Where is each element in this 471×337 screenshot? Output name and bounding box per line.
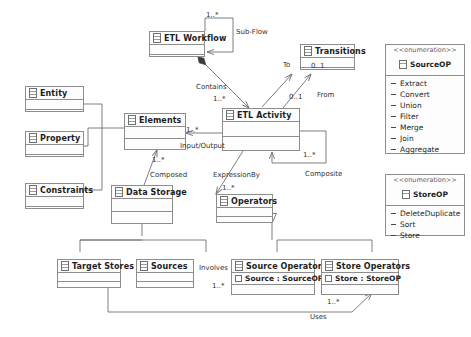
enumeration-literal: Store <box>386 230 464 241</box>
class-entity[interactable]: Entity <box>25 86 84 112</box>
class-sources[interactable]: Sources <box>136 259 194 288</box>
class-attribute-row: Store : StoreOP <box>322 273 398 284</box>
class-title: Property <box>40 134 80 143</box>
edge-label-from: From <box>317 92 334 99</box>
enumeration-literal: Merge <box>386 122 464 133</box>
enumeration-icon <box>399 60 407 69</box>
class-attributes <box>112 199 172 212</box>
edge-multiplicity-composed: 1..* <box>152 157 164 164</box>
class-title: Target Stores <box>72 262 134 271</box>
edge-label-uses: Uses <box>310 314 327 321</box>
class-operations <box>232 285 314 293</box>
literal-text: Sort <box>400 220 415 229</box>
class-operations <box>301 68 354 77</box>
class-attributes <box>150 45 204 55</box>
literal-bullet-icon <box>391 213 396 214</box>
class-title: ETL Workflow <box>164 34 226 43</box>
edge-label-input-output: Input/Output <box>180 143 225 150</box>
class-header: Elements <box>125 114 185 127</box>
edge-label-expressionby: ExpressionBy <box>213 172 260 179</box>
class-header: ETL Activity <box>223 109 299 122</box>
class-header: Operators <box>217 195 272 208</box>
edge-label-composite: Composite <box>305 171 342 178</box>
class-attributes <box>223 122 299 137</box>
class-icon <box>220 196 228 206</box>
class-attributes <box>26 100 83 110</box>
enumeration-literal: Filter <box>386 111 464 122</box>
class-target-stores[interactable]: Target Stores <box>57 259 121 288</box>
class-icon <box>61 261 69 271</box>
literal-bullet-icon <box>391 116 396 117</box>
edge-multiplicity-contains: 1..* <box>213 96 225 103</box>
class-operations <box>223 137 299 151</box>
class-header: Data Storage <box>112 186 172 199</box>
class-icon <box>235 261 243 271</box>
enumeration-literals: DeleteDuplicate Sort Store <box>386 206 464 244</box>
literal-bullet-icon <box>391 224 396 225</box>
enumeration-literal: Convert <box>386 89 464 100</box>
class-attributes <box>26 145 83 155</box>
enumeration-stereotype: <<enumeration>> <box>389 177 461 184</box>
edge-multiplicity-from: 0..1 <box>311 63 324 70</box>
class-title: Transitions <box>315 47 366 56</box>
enumeration-name-wrap: StoreOP <box>402 190 448 199</box>
class-operations <box>26 155 83 164</box>
class-header: Constraints <box>26 184 83 197</box>
literal-text: Store <box>400 231 420 240</box>
enumeration-name: StoreOP <box>413 190 448 199</box>
class-constraints[interactable]: Constraints <box>25 183 84 209</box>
class-operations <box>112 212 172 225</box>
class-operations <box>26 110 83 119</box>
class-data-storage[interactable]: Data Storage <box>111 185 173 224</box>
literal-text: Union <box>400 101 422 110</box>
class-attributes <box>301 58 354 68</box>
class-store-operators[interactable]: Store Operators Store : StoreOP <box>321 259 399 295</box>
literal-text: DeleteDuplicate <box>400 209 460 218</box>
class-attributes <box>26 197 83 207</box>
class-icon <box>128 115 136 125</box>
class-operations <box>150 55 204 64</box>
enumeration-literal: DeleteDuplicate <box>386 208 464 219</box>
class-title: Constraints <box>40 186 93 195</box>
edge-multiplicity-composite: 1..* <box>303 152 315 159</box>
class-transitions[interactable]: Transitions <box>300 44 355 70</box>
edge-label-involves: Involves <box>199 265 228 272</box>
class-elements[interactable]: Elements <box>124 113 186 150</box>
edge-multiplicity-to: 0..1 <box>289 94 302 101</box>
class-source-operators[interactable]: Source Operators Source : SourceOP <box>231 259 315 295</box>
edge-multiplicity-involves: 1..* <box>212 283 224 290</box>
edge-multiplicity-sub-flow: 1..* <box>206 12 218 19</box>
class-attribute-row: Source : SourceOP <box>232 273 314 284</box>
class-title: Source Operators <box>246 262 327 271</box>
class-icon <box>29 88 37 98</box>
class-operators[interactable]: Operators <box>216 194 273 223</box>
class-header: ETL Workflow <box>150 32 204 45</box>
class-etl-activity[interactable]: ETL Activity <box>222 108 300 151</box>
literal-bullet-icon <box>391 83 396 84</box>
enumeration-header: <<enumeration>> SourceOP <box>386 45 464 76</box>
literal-bullet-icon <box>391 149 396 150</box>
class-attributes: Source : SourceOP <box>232 273 314 285</box>
enumeration-literal: Extract <box>386 78 464 89</box>
class-title: Elements <box>139 116 181 125</box>
class-attributes: Store : StoreOP <box>322 273 398 285</box>
attribute-text: Source : SourceOP <box>245 274 323 283</box>
class-title: ETL Activity <box>237 111 292 120</box>
class-attributes <box>137 273 193 282</box>
literal-text: Merge <box>400 123 423 132</box>
class-operations <box>322 285 398 293</box>
attribute-icon <box>235 275 242 282</box>
class-operations <box>217 217 272 225</box>
enumeration-storeop[interactable]: <<enumeration>> StoreOP DeleteDuplicate … <box>385 174 465 236</box>
class-property[interactable]: Property <box>25 131 84 157</box>
class-title: Store Operators <box>336 262 410 271</box>
class-operations <box>26 207 83 216</box>
class-header: Target Stores <box>58 260 120 273</box>
enumeration-sourceop[interactable]: <<enumeration>> SourceOP Extract Convert… <box>385 44 465 154</box>
enumeration-literal: Join <box>386 133 464 144</box>
class-etl-workflow[interactable]: ETL Workflow <box>149 31 205 57</box>
enumeration-literal: Union <box>386 100 464 111</box>
class-icon <box>226 110 234 120</box>
enumeration-header: <<enumeration>> StoreOP <box>386 175 464 206</box>
edge-label-contains: Contains <box>196 84 227 91</box>
